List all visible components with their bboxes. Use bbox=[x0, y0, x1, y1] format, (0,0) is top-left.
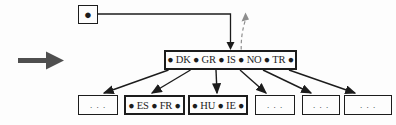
child-arrow-3 bbox=[216, 70, 217, 93]
child-node-1: . . . bbox=[78, 95, 118, 115]
child-node-2-keys: ● ES ● FR ● bbox=[128, 100, 180, 111]
child-node-5: . . . bbox=[302, 95, 340, 115]
dashed-return-arrowhead-icon bbox=[242, 13, 250, 22]
flow-arrow-icon bbox=[18, 52, 64, 70]
child-node-5-label: . . . bbox=[313, 100, 329, 110]
child-node-1-label: . . . bbox=[90, 100, 106, 110]
pointer-dot-icon: ● bbox=[84, 8, 92, 21]
child-node-4-label: . . . bbox=[267, 100, 283, 110]
child-node-2: ● ES ● FR ● bbox=[124, 95, 185, 115]
root-node-keys: ● DK ● GR ● IS ● NO ● TR ● bbox=[167, 54, 294, 65]
btree-figure: ● ● DK ● GR ● IS ● NO ● TR ● . . . ● ES … bbox=[0, 0, 396, 125]
root-node: ● DK ● GR ● IS ● NO ● TR ● bbox=[164, 50, 297, 70]
child-arrow-4 bbox=[240, 70, 266, 93]
child-node-3: ● HU ● IE ● bbox=[188, 95, 248, 115]
parent-pointer-line bbox=[91, 14, 231, 43]
child-node-3-keys: ● HU ● IE ● bbox=[192, 100, 244, 111]
child-arrow-6 bbox=[289, 70, 355, 93]
parent-pointer-arrowhead-icon bbox=[227, 42, 235, 50]
child-node-6: . . . bbox=[344, 95, 392, 115]
child-node-6-label: . . . bbox=[360, 100, 376, 110]
parent-pointer-box: ● bbox=[78, 5, 98, 24]
child-arrow-5 bbox=[263, 70, 311, 93]
child-node-4: . . . bbox=[255, 95, 295, 115]
